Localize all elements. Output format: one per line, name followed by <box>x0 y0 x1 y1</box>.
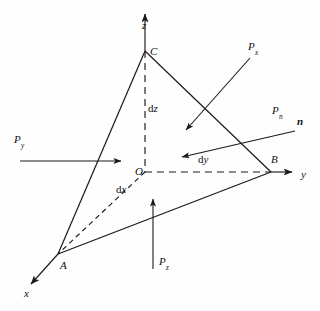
py-base: P <box>14 133 21 145</box>
edge-a-b <box>58 172 271 254</box>
pn-subscript: n <box>279 113 283 121</box>
force-label-px: Px <box>248 41 258 55</box>
force-vectors <box>20 58 295 269</box>
x-axis-label: x <box>24 288 29 299</box>
force-label-pn: Pn <box>272 105 282 119</box>
y-axis-label: y <box>301 169 306 180</box>
dimension-label-dx: dx <box>116 184 126 195</box>
px-subscript: x <box>255 49 258 57</box>
dx-symbol: x <box>122 183 127 195</box>
edge-c-a <box>58 51 145 254</box>
pz-base: P <box>159 255 166 267</box>
force-px-arrow <box>186 58 250 130</box>
vertex-label-b: B <box>271 154 278 165</box>
force-label-py: Py <box>14 134 24 148</box>
py-subscript: y <box>21 142 24 150</box>
z-axis-label: z <box>142 20 146 31</box>
px-base: P <box>248 40 255 52</box>
pn-base: P <box>272 104 279 116</box>
dy-symbol: y <box>204 153 209 165</box>
normal-vector-label: n <box>297 116 303 127</box>
x-axis-line <box>31 254 58 284</box>
pz-subscript: z <box>166 264 169 272</box>
vertex-label-o: O <box>135 166 143 177</box>
vertex-label-c: C <box>150 46 157 57</box>
edge-o-a-dashed <box>58 172 145 254</box>
figure-canvas: z y x O C B A dz dy dx Px Pn Py Pz n <box>0 0 320 311</box>
dimension-label-dz: dz <box>148 103 158 114</box>
tetrahedron-edges <box>58 51 271 254</box>
vertex-label-a: A <box>60 260 67 271</box>
force-label-pz: Pz <box>159 256 169 270</box>
dimension-label-dy: dy <box>198 154 208 165</box>
dz-symbol: z <box>154 102 158 114</box>
